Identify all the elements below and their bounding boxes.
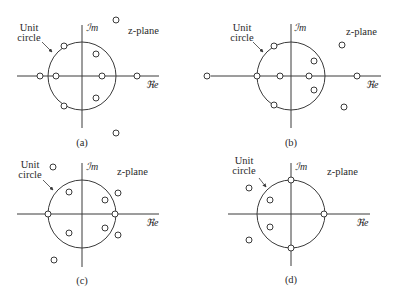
zero-marker: [102, 225, 108, 231]
imaginary-axis-label: ℐm: [295, 161, 307, 172]
zero-marker: [37, 73, 43, 79]
zero-marker: [61, 103, 67, 109]
zero-plot-figure: Unit circle ℐm ℜe z-plane (a) Unit circl…: [0, 0, 396, 298]
zero-marker: [113, 17, 119, 23]
zero-marker: [246, 237, 252, 243]
imaginary-axis-label: ℐm: [294, 22, 306, 33]
zero-marker: [354, 73, 360, 79]
imaginary-axis-label: ℐm: [86, 161, 98, 172]
unit-circle-pointer-arrow: [259, 178, 266, 187]
zero-marker: [246, 185, 252, 191]
zero-marker: [288, 177, 294, 183]
zero-marker: [51, 257, 57, 263]
zero-marker: [53, 73, 59, 79]
z-plane-label: z-plane: [117, 166, 148, 177]
unit-circle-pointer-arrow: [253, 42, 263, 52]
panel-d: Unit circle ℐm ℜe z-plane (d): [228, 155, 370, 286]
zero-marker: [115, 190, 121, 196]
panel-caption: (c): [76, 275, 88, 287]
zero-marker: [311, 58, 317, 64]
zero-marker: [267, 224, 273, 230]
unit-circle-label-line2: circle: [18, 169, 42, 180]
z-plane-label: z-plane: [128, 25, 159, 36]
zero-marker: [66, 189, 72, 195]
real-axis-label: ℜe: [356, 217, 369, 228]
zero-marker: [321, 211, 327, 217]
real-axis-label: ℜe: [146, 217, 159, 228]
zero-marker: [99, 73, 105, 79]
zero-marker: [134, 73, 140, 79]
zero-marker: [339, 42, 345, 48]
panel-b: Unit circle ℐm ℜe z-plane (b): [204, 22, 381, 149]
zero-marker: [61, 43, 67, 49]
zero-marker: [311, 87, 317, 93]
zero-marker: [93, 95, 99, 101]
zero-marker: [271, 102, 277, 108]
imaginary-axis-label: ℐm: [86, 22, 98, 33]
zero-marker: [254, 73, 260, 79]
zero-marker: [306, 73, 312, 79]
unit-circle-label-line2: circle: [17, 32, 41, 43]
panel-caption: (b): [285, 137, 298, 149]
zero-marker: [288, 245, 294, 251]
zero-marker: [45, 211, 51, 217]
zero-marker: [102, 197, 108, 203]
unit-circle-pointer-arrow: [42, 42, 52, 52]
panel-a: Unit circle ℐm ℜe z-plane (a): [17, 17, 159, 149]
panel-caption: (a): [76, 137, 88, 149]
real-axis-label: ℜe: [146, 79, 159, 90]
zero-marker: [112, 211, 118, 217]
panel-c: Unit circle ℐm ℜe z-plane (c): [17, 159, 159, 287]
panel-caption: (d): [285, 274, 298, 286]
zero-marker: [50, 164, 56, 170]
zero-marker: [66, 230, 72, 236]
zero-marker: [271, 43, 277, 49]
z-plane-label: z-plane: [346, 26, 377, 37]
zero-marker: [204, 73, 210, 79]
unit-circle-label-line2: circle: [232, 165, 256, 176]
unit-circle-label-line2: circle: [230, 32, 254, 43]
real-axis-label: ℜe: [366, 79, 379, 90]
zero-marker: [93, 51, 99, 57]
zero-marker: [267, 197, 273, 203]
zero-marker: [277, 73, 283, 79]
z-plane-label: z-plane: [327, 166, 358, 177]
zero-marker: [113, 130, 119, 136]
zero-marker: [115, 232, 121, 238]
unit-circle-pointer-arrow: [43, 180, 53, 190]
zero-marker: [341, 104, 347, 110]
